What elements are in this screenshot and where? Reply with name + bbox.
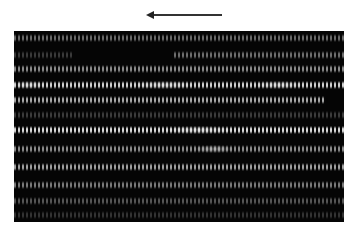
fringe-band [14, 51, 74, 59]
fringe-band [174, 51, 344, 59]
band-highlight [254, 81, 304, 89]
fringe-band [14, 96, 324, 104]
fringe-band [14, 111, 344, 119]
fringe-band [14, 197, 344, 205]
fringe-band [14, 181, 344, 189]
fringe-band [14, 211, 344, 219]
band-highlight [194, 145, 234, 153]
fringe-band [14, 145, 344, 153]
micrograph-panel [14, 31, 344, 222]
fringe-band [14, 163, 344, 171]
band-highlight [164, 126, 234, 134]
fringe-band [14, 34, 344, 42]
direction-arrow-icon [146, 11, 222, 19]
fringe-band [14, 65, 344, 73]
band-highlight [14, 81, 44, 89]
band-highlight [134, 81, 194, 89]
arrow-shaft [152, 14, 222, 16]
arrow-head [146, 11, 154, 19]
